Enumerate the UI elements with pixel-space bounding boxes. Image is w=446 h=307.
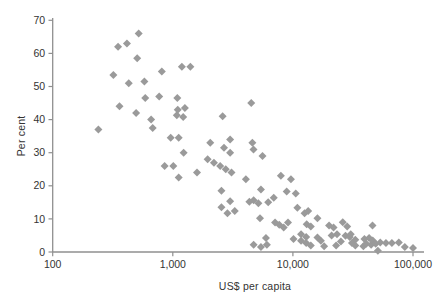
data-point	[175, 134, 183, 142]
y-axis-title: Per cent	[15, 116, 27, 157]
data-point	[149, 124, 157, 132]
data-point	[125, 79, 133, 87]
data-point	[290, 235, 298, 243]
data-point	[226, 149, 234, 157]
y-tick-label: 40	[34, 113, 46, 125]
data-point	[283, 187, 291, 195]
y-tick-label: 60	[34, 47, 46, 59]
data-point	[161, 162, 169, 170]
data-point	[179, 113, 187, 121]
data-point	[178, 63, 186, 71]
data-point	[242, 175, 250, 183]
data-point	[226, 135, 234, 143]
x-tick-label: 100	[44, 258, 62, 270]
data-point	[158, 68, 166, 76]
data-point	[293, 204, 301, 212]
data-point	[217, 187, 225, 195]
data-point	[167, 134, 175, 142]
data-point	[141, 94, 149, 102]
data-point	[226, 197, 234, 205]
y-tick-label: 30	[34, 146, 46, 158]
data-point	[257, 185, 265, 193]
data-point	[206, 139, 214, 147]
data-point	[223, 209, 231, 217]
data-point	[250, 241, 258, 249]
data-point	[181, 104, 189, 112]
data-point	[409, 244, 417, 252]
data-point	[140, 78, 148, 86]
data-point	[133, 54, 141, 62]
data-point	[264, 198, 272, 206]
data-point	[262, 234, 270, 242]
data-point	[256, 214, 264, 222]
y-tick-label: 0	[39, 246, 45, 258]
data-point	[220, 144, 228, 152]
data-point	[186, 63, 194, 71]
data-point	[401, 243, 409, 251]
data-point	[94, 126, 102, 134]
plot-area: 0102030405060701001,00010,000100,000	[0, 0, 446, 307]
x-tick-label: 100,000	[394, 258, 432, 270]
data-point	[132, 109, 140, 117]
data-point	[277, 172, 285, 180]
data-point	[204, 155, 212, 163]
data-point	[333, 230, 341, 238]
data-point	[388, 239, 396, 247]
data-point	[248, 139, 256, 147]
data-point	[219, 112, 227, 120]
data-point	[374, 247, 382, 255]
data-point	[135, 30, 143, 38]
y-tick-label: 50	[34, 80, 46, 92]
data-point	[147, 116, 155, 124]
data-point	[247, 99, 255, 107]
y-tick-label: 70	[34, 14, 46, 26]
data-point	[258, 152, 266, 160]
scatter-plot-figure: 0102030405060701001,00010,000100,000 Per…	[0, 0, 446, 307]
data-point	[270, 194, 278, 202]
data-point	[123, 39, 131, 47]
data-point	[313, 214, 321, 222]
data-point	[169, 162, 177, 170]
data-point	[116, 102, 124, 110]
data-point	[217, 203, 225, 211]
data-point	[193, 169, 201, 177]
x-tick-label: 10,000	[277, 258, 309, 270]
data-point	[114, 43, 122, 51]
y-tick-label: 20	[34, 179, 46, 191]
data-point	[174, 106, 182, 114]
data-point	[109, 71, 117, 79]
data-point	[368, 222, 376, 230]
data-point	[287, 175, 295, 183]
data-point	[173, 94, 181, 102]
x-tick-label: 1,000	[160, 258, 186, 270]
y-tick-label: 10	[34, 213, 46, 225]
data-point	[231, 207, 239, 215]
data-point	[175, 174, 183, 182]
data-point	[155, 92, 163, 100]
data-point	[250, 145, 258, 153]
data-point	[180, 149, 188, 157]
data-point	[292, 189, 300, 197]
x-axis-title: US$ per capita	[219, 280, 291, 292]
data-point	[395, 238, 403, 246]
